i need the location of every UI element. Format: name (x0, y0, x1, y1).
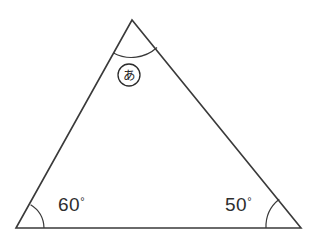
apex-angle-arc (114, 48, 158, 58)
triangle-diagram: 60° 50° あ (0, 0, 318, 250)
right-angle-label: 50° (225, 194, 252, 215)
unknown-angle-marker-label: あ (123, 68, 136, 83)
figure-canvas: 60° 50° あ (0, 0, 318, 250)
left-angle-label: 60° (58, 194, 85, 215)
left-angle-arc (31, 205, 44, 228)
right-angle-degree-symbol: ° (247, 195, 252, 207)
left-angle-number: 60 (58, 194, 80, 215)
left-angle-degree-symbol: ° (80, 195, 85, 207)
right-angle-number: 50 (225, 194, 247, 215)
right-angle-arc (266, 199, 279, 228)
